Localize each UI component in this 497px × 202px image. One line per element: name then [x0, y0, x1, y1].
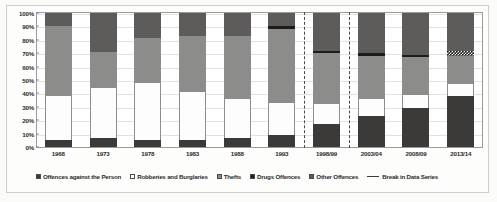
bar-segment: [402, 57, 429, 95]
bar-segment: [134, 13, 161, 38]
legend-swatch-icon: [309, 174, 314, 179]
y-axis-tick-label: 30%: [22, 103, 34, 110]
legend-item[interactable]: Other Offences: [309, 173, 358, 180]
bar-1973: [90, 13, 117, 147]
legend-swatch-icon: [130, 174, 135, 179]
y-axis-tick-mark: [36, 120, 39, 121]
bar-segment: [268, 135, 295, 147]
y-axis-tick-mark: [36, 147, 39, 148]
y-axis: 0%10%20%30%40%50%60%70%80%90%100%: [6, 12, 36, 148]
bar-1968: [45, 13, 72, 147]
legend-label: Thefts: [224, 173, 241, 180]
chart-legend: Offences against the PersonRobberies and…: [36, 170, 483, 182]
bar-segment: [268, 103, 295, 135]
bar-1998-99: [313, 13, 340, 147]
bar-segment: [179, 92, 206, 140]
bar-segment: [313, 53, 340, 104]
bar-segment: [358, 99, 385, 116]
break-line-icon: [367, 176, 379, 177]
bar-segment: [134, 140, 161, 147]
bar-1978: [134, 13, 161, 147]
bar-segment: [45, 96, 72, 140]
y-axis-tick-mark: [36, 13, 39, 14]
bar-segment: [90, 88, 117, 138]
bar-segment: [402, 108, 429, 147]
legend-label: Other Offences: [316, 173, 358, 180]
bar-2013-14: [447, 13, 474, 147]
bar-segment: [447, 56, 474, 84]
bar-segment: [45, 26, 72, 96]
x-axis-tick-label: 1998/99: [316, 150, 337, 157]
bar-segment: [90, 52, 117, 88]
bar-segment: [224, 36, 251, 99]
bar-segment: [179, 36, 206, 92]
x-axis-tick-label: 2008/09: [405, 150, 426, 157]
bar-segment: [447, 96, 474, 147]
legend-swatch-icon: [36, 174, 41, 179]
bar-segment: [90, 138, 117, 147]
bar-segment: [224, 99, 251, 138]
legend-swatch-icon: [217, 174, 222, 179]
legend-label: Drugs Offences: [257, 173, 300, 180]
bars-layer: [36, 12, 483, 148]
bar-segment: [134, 83, 161, 141]
bar-segment: [402, 95, 429, 108]
y-axis-tick-mark: [36, 26, 39, 27]
y-axis-tick-label: 80%: [22, 36, 34, 43]
legend-item[interactable]: Robberies and Burglaries: [130, 173, 208, 180]
legend-item[interactable]: Break in Data Series: [367, 173, 438, 180]
bar-segment: [358, 116, 385, 147]
bar-2008-09: [402, 13, 429, 147]
y-axis-tick-mark: [36, 66, 39, 67]
bar-segment: [447, 13, 474, 51]
bar-segment: [268, 29, 295, 103]
legend-label: Robberies and Burglaries: [137, 173, 208, 180]
bar-segment: [447, 84, 474, 96]
bar-segment: [358, 13, 385, 53]
x-axis-tick-label: 1983: [186, 150, 199, 157]
bar-segment: [45, 13, 72, 26]
break-in-data-series-line: [349, 12, 350, 148]
legend-item[interactable]: Offences against the Person: [36, 173, 121, 180]
x-axis-tick-label: 2013/14: [450, 150, 471, 157]
y-axis-tick-label: 100%: [19, 10, 34, 17]
legend-label: Break in Data Series: [382, 173, 438, 180]
x-axis: 1968197319781983198819931998/992003/0420…: [36, 149, 483, 161]
bar-segment: [90, 13, 117, 52]
y-axis-tick-label: 20%: [22, 117, 34, 124]
bar-1983: [179, 13, 206, 147]
bar-2003-04: [358, 13, 385, 147]
y-axis-tick-mark: [36, 80, 39, 81]
bar-segment: [45, 140, 72, 147]
bar-segment: [224, 13, 251, 36]
bar-segment: [268, 13, 295, 26]
bar-segment: [313, 124, 340, 147]
bar-1988: [224, 13, 251, 147]
y-axis-tick-label: 90%: [22, 23, 34, 30]
legend-swatch-icon: [250, 174, 255, 179]
legend-item[interactable]: Thefts: [217, 173, 241, 180]
x-axis-tick-label: 1988: [231, 150, 244, 157]
y-axis-tick-mark: [36, 106, 39, 107]
break-in-data-series-line: [304, 12, 305, 148]
x-axis-tick-label: 1993: [275, 150, 288, 157]
bar-segment: [224, 138, 251, 147]
y-axis-tick-mark: [36, 53, 39, 54]
y-axis-tick-label: 0%: [25, 144, 34, 151]
y-axis-tick-label: 70%: [22, 50, 34, 57]
legend-item[interactable]: Drugs Offences: [250, 173, 300, 180]
bar-segment: [179, 13, 206, 36]
x-axis-tick-label: 1968: [52, 150, 65, 157]
legend-label: Offences against the Person: [43, 173, 121, 180]
y-axis-tick-mark: [36, 39, 39, 40]
bar-segment: [179, 140, 206, 147]
chart-container: 0%10%20%30%40%50%60%70%80%90%100% 196819…: [0, 0, 497, 202]
y-axis-tick-label: 40%: [22, 90, 34, 97]
x-axis-tick-label: 1978: [141, 150, 154, 157]
bar-segment: [358, 56, 385, 99]
bar-segment: [313, 13, 340, 51]
x-axis-tick-label: 1973: [97, 150, 110, 157]
bar-segment: [402, 13, 429, 55]
bar-segment: [313, 104, 340, 124]
bar-segment: [134, 38, 161, 82]
